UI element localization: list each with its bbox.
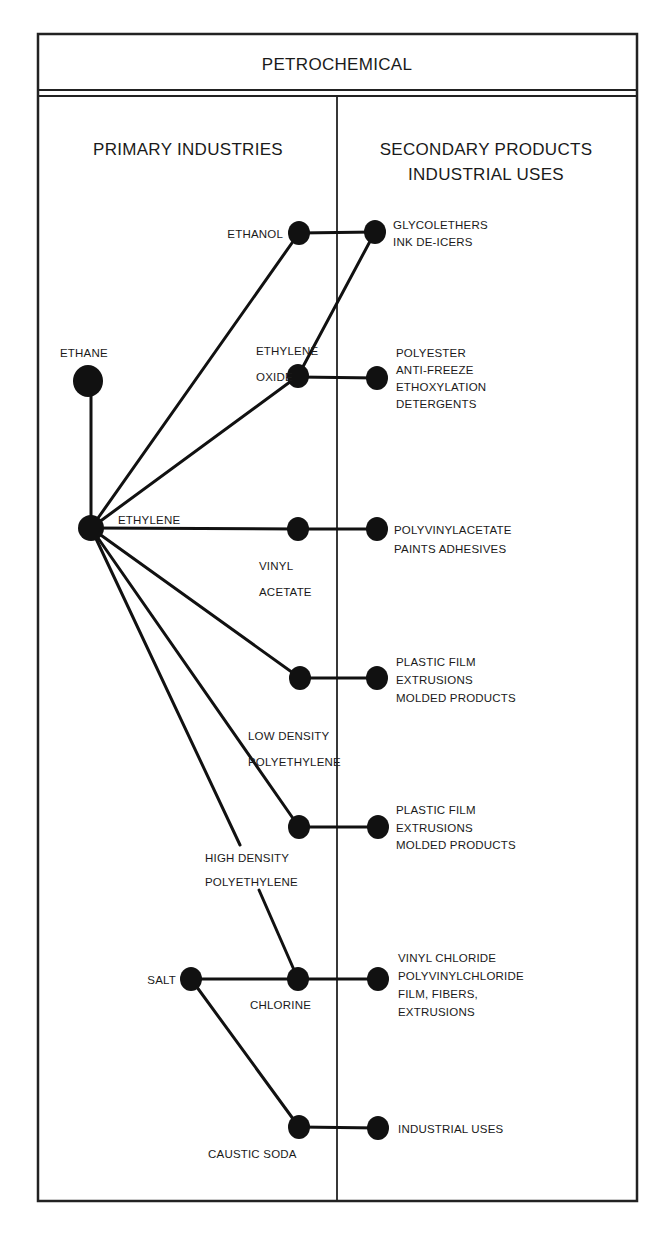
node-polyvinylacetate [366,517,388,541]
product-hdpe-uses-3: MOLDED PRODUCTS [396,839,516,851]
node-vinyl-acetate [287,517,309,541]
petrochemical-flow-diagram: PETROCHEMICAL PRIMARY INDUSTRIES SECONDA… [0,0,667,1242]
label-ethylene: ETHYLENE [118,514,180,526]
edges [91,232,378,1128]
label-hdpe-1: HIGH DENSITY [205,852,289,864]
node-ethylene [78,515,104,541]
edge-ethylene-ldpe [91,528,300,678]
diagram-title: PETROCHEMICAL [262,55,412,74]
label-ethylene-oxide-2: OXIDE [256,371,293,383]
node-ethanol [288,221,310,245]
node-ldpe-uses [366,666,388,690]
product-polyester-3: ETHOXYLATION [396,381,486,393]
product-pvc-2: POLYVINYLCHLORIDE [398,970,524,982]
product-ldpe-uses-3: MOLDED PRODUCTS [396,692,516,704]
product-industrial-uses: INDUSTRIAL USES [398,1123,504,1135]
diagram-frame [38,34,637,1201]
label-vinyl-acetate-2: ACETATE [259,586,312,598]
node-caustic-soda [288,1115,310,1139]
column-header-secondary-line1: SECONDARY PRODUCTS [380,140,593,159]
product-hdpe-uses-1: PLASTIC FILM [396,804,476,816]
node-chlorine [287,967,309,991]
node-salt [180,967,202,991]
column-header-secondary-line2: INDUSTRIAL USES [408,165,564,184]
edge-ethylene-chlorine-lower [259,890,298,979]
label-hdpe-2: POLYETHYLENE [205,876,298,888]
product-glycolethers-1: GLYCOLETHERS [393,219,488,231]
label-ethylene-oxide-1: ETHYLENE [256,345,318,357]
node-hdpe-uses [367,815,389,839]
product-pva-1: POLYVINYLACETATE [394,524,512,536]
node-glycolethers [364,220,386,244]
product-ldpe-uses-1: PLASTIC FILM [396,656,476,668]
label-salt: SALT [147,974,176,986]
node-ldpe [289,666,311,690]
product-pvc-3: FILM, FIBERS, [398,988,478,1000]
label-ethanol: ETHANOL [227,228,283,240]
edge-ethylene-oxide-polyester [298,377,377,378]
edge-caustic-soda-uses [299,1127,378,1128]
label-ldpe-2: POLYETHYLENE [248,756,341,768]
edge-ethylene-hdpe [91,528,299,827]
label-caustic-soda: CAUSTIC SODA [208,1148,297,1160]
product-pvc-4: EXTRUSIONS [398,1006,475,1018]
product-ldpe-uses-2: EXTRUSIONS [396,674,473,686]
product-glycolethers-2: INK DE-ICERS [393,236,473,248]
product-labels: GLYCOLETHERS INK DE-ICERS POLYESTER ANTI… [393,219,524,1135]
edge-ethylene-vinyl-acetate [91,528,298,529]
label-ldpe-1: LOW DENSITY [248,730,330,742]
label-chlorine: CHLORINE [250,999,311,1011]
product-polyester-4: DETERGENTS [396,398,477,410]
node-ethane [73,365,103,397]
label-ethane: ETHANE [60,347,108,359]
product-pva-2: PAINTS ADHESIVES [394,543,506,555]
node-pvc-uses [367,967,389,991]
secondary-nodes [364,220,389,1140]
node-caustic-uses [367,1116,389,1140]
edge-ethylene-chlorine-upper [91,528,240,845]
edge-ethylene-ethylene-oxide [91,376,298,528]
product-polyester-2: ANTI-FREEZE [396,364,474,376]
label-vinyl-acetate-1: VINYL [259,560,294,572]
product-pvc-1: VINYL CHLORIDE [398,952,496,964]
product-polyester-1: POLYESTER [396,347,466,359]
node-hdpe [288,815,310,839]
column-header-primary: PRIMARY INDUSTRIES [93,140,283,159]
edge-ethanol-glycolethers [299,232,375,233]
product-hdpe-uses-2: EXTRUSIONS [396,822,473,834]
node-polyester [366,366,388,390]
